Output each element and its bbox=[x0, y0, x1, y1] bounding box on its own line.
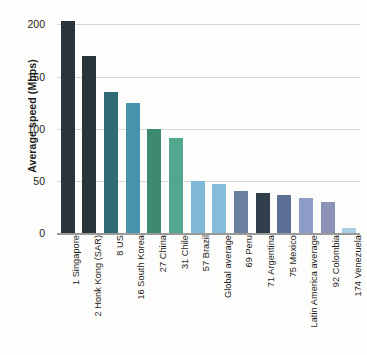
bar bbox=[342, 228, 356, 233]
x-tick-label: 31 Chile bbox=[180, 235, 190, 269]
x-tick-label: 92 Colombia bbox=[331, 235, 341, 287]
bar bbox=[321, 202, 335, 233]
x-tick-label: 8 US bbox=[115, 235, 125, 256]
y-tick-label-200: 200 bbox=[5, 18, 45, 30]
bar bbox=[61, 21, 75, 233]
y-tick-label-0: 0 bbox=[5, 227, 45, 239]
bar bbox=[277, 195, 291, 233]
bar bbox=[191, 181, 205, 233]
x-tick-label: 75 Mexico bbox=[288, 235, 298, 277]
x-tick-label: Global average bbox=[223, 235, 233, 298]
x-tick-label: Latin America average bbox=[309, 235, 319, 327]
x-tick-label: 1 Singapore bbox=[71, 235, 81, 285]
x-tick-label: 16 South Korea bbox=[136, 235, 146, 300]
x-tick-label: 27 China bbox=[158, 235, 168, 272]
bar bbox=[299, 198, 313, 233]
x-tick-label: 2 Honk Kong (SAR) bbox=[93, 235, 103, 317]
plot-area: 050100150200 bbox=[57, 14, 360, 233]
bar bbox=[212, 184, 226, 233]
average-speed-bar-chart: Average speed (Mbps) 050100150200 1 Sing… bbox=[0, 0, 367, 355]
bar bbox=[169, 138, 183, 233]
bar bbox=[104, 92, 118, 233]
x-axis-category-labels: 1 Singapore2 Honk Kong (SAR)8 US16 South… bbox=[57, 235, 360, 353]
x-tick-label: 71 Argentina bbox=[266, 235, 276, 287]
y-tick-label-150: 150 bbox=[5, 71, 45, 83]
bar bbox=[82, 56, 96, 233]
x-tick-label: 69 Peru bbox=[244, 235, 254, 268]
bar-series bbox=[57, 14, 360, 233]
y-tick-label-100: 100 bbox=[5, 123, 45, 135]
y-tick-label-50: 50 bbox=[5, 175, 45, 187]
x-tick-label: 174 Venezuela bbox=[353, 235, 363, 296]
bar bbox=[147, 129, 161, 233]
bar bbox=[126, 103, 140, 233]
x-tick-label: 57 Brazil bbox=[201, 235, 211, 271]
bar bbox=[256, 193, 270, 233]
bar bbox=[234, 191, 248, 233]
